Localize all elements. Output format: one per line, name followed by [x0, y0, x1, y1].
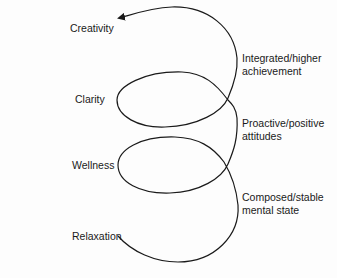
stage-label-composed: Composed/stable mental state [242, 191, 324, 216]
level-label-relaxation: Relaxation [72, 230, 122, 243]
stage-label-line: Composed/stable [242, 191, 324, 204]
spiral-diagram: Creativity Clarity Wellness Relaxation I… [0, 0, 337, 278]
spiral-line [117, 7, 238, 262]
stage-label-line: mental state [242, 204, 324, 217]
level-label-clarity: Clarity [75, 93, 105, 106]
stage-label-line: attitudes [242, 130, 324, 143]
stage-label-line: achievement [242, 65, 321, 78]
stage-label-line: Integrated/higher [242, 52, 321, 65]
level-label-wellness: Wellness [72, 159, 114, 172]
stage-label-line: Proactive/positive [242, 117, 324, 130]
stage-label-proactive: Proactive/positive attitudes [242, 117, 324, 142]
level-label-creativity: Creativity [70, 22, 114, 35]
stage-label-integrated: Integrated/higher achievement [242, 52, 321, 77]
